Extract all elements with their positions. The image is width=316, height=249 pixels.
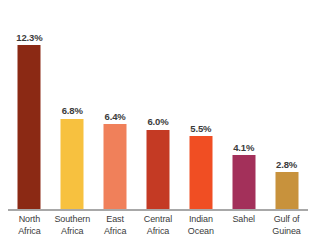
category-label-slot: Central Africa xyxy=(137,214,180,237)
bar-value-label: 6.0% xyxy=(147,116,168,127)
x-axis-baseline xyxy=(8,209,308,211)
bar-rect[interactable] xyxy=(275,172,298,210)
bar-group: 6.4% xyxy=(94,6,137,210)
bar-value-label: 6.4% xyxy=(105,111,126,122)
bar-column[interactable]: 6.8% xyxy=(61,6,84,210)
bar-rect[interactable] xyxy=(232,155,255,210)
category-label-slot: Gulf of Guinea xyxy=(265,214,308,237)
bar-group: 6.0% xyxy=(137,6,180,210)
category-label-slot: Indian Ocean xyxy=(179,214,222,237)
category-label-slot: East Africa xyxy=(94,214,137,237)
category-label: East Africa xyxy=(94,214,137,237)
category-label: Indian Ocean xyxy=(179,214,222,237)
bar-column[interactable]: 6.4% xyxy=(104,6,127,210)
bar-column[interactable]: 12.3% xyxy=(18,6,41,210)
plot-area: 12.3%6.8%6.4%6.0%5.5%4.1%2.8% xyxy=(8,6,308,210)
category-label: Gulf of Guinea xyxy=(265,214,308,237)
category-label-slot: Southern Africa xyxy=(51,214,94,237)
bar-group: 2.8% xyxy=(265,6,308,210)
category-label-slot: North Africa xyxy=(8,214,51,237)
bar-rect[interactable] xyxy=(189,136,212,210)
bar-column[interactable]: 2.8% xyxy=(275,6,298,210)
bar-group: 6.8% xyxy=(51,6,94,210)
bar-group: 5.5% xyxy=(179,6,222,210)
bar-value-label: 4.1% xyxy=(233,142,254,153)
bar-value-label: 5.5% xyxy=(190,123,211,134)
bar-chart: 12.3%6.8%6.4%6.0%5.5%4.1%2.8% North Afri… xyxy=(0,0,316,249)
bar-value-label: 6.8% xyxy=(62,105,83,116)
category-label: Sahel xyxy=(222,214,265,226)
bar-rect[interactable] xyxy=(18,45,41,210)
bar-column[interactable]: 4.1% xyxy=(232,6,255,210)
bar-rect[interactable] xyxy=(61,119,84,210)
category-axis: North AfricaSouthern AfricaEast AfricaCe… xyxy=(8,214,308,248)
category-label: North Africa xyxy=(8,214,51,237)
category-label: Southern Africa xyxy=(51,214,94,237)
bar-column[interactable]: 5.5% xyxy=(189,6,212,210)
bar-rect[interactable] xyxy=(146,130,169,210)
bar-value-label: 12.3% xyxy=(16,32,42,43)
bar-value-label: 2.8% xyxy=(276,159,297,170)
bar-column[interactable]: 6.0% xyxy=(146,6,169,210)
bar-rect[interactable] xyxy=(104,124,127,210)
category-label: Central Africa xyxy=(137,214,180,237)
bar-group: 4.1% xyxy=(222,6,265,210)
category-label-slot: Sahel xyxy=(222,214,265,226)
bar-group: 12.3% xyxy=(8,6,51,210)
